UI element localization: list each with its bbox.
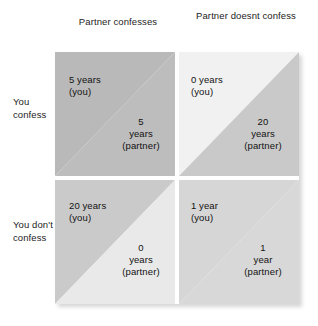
payoff-partner: 20 years (partner) (235, 116, 291, 152)
payoff-you: 1 year (you) (191, 200, 218, 224)
cell-confess-notconfess: 0 years (you) 20 years (partner) (177, 52, 299, 178)
cell-confess-confess: 5 years (you) 5 years (partner) (55, 52, 177, 178)
column-header-partner-doesnt-confess: Partner doesnt confess (196, 10, 296, 22)
payoff-matrix-figure: Partner confesses Partner doesnt confess… (0, 0, 318, 326)
payoff-you: 0 years (you) (191, 74, 223, 98)
row-header-you-dont-confess: You don't confess (13, 219, 59, 244)
row-header-you-confess: You confess (13, 96, 59, 121)
payoff-you: 5 years (you) (69, 74, 101, 98)
column-header-partner-confesses: Partner confesses (62, 16, 174, 28)
cell-notconfess-notconfess: 1 year (you) 1 year (partner) (177, 178, 299, 304)
payoff-partner: 5 years (partner) (113, 116, 169, 152)
matrix-body: 5 years (you) 5 years (partner) 0 years … (55, 52, 299, 304)
payoff-partner: 1 year (partner) (235, 242, 291, 278)
payoff-you: 20 years (you) (69, 200, 106, 224)
payoff-partner: 0 years (partner) (113, 242, 169, 278)
cell-notconfess-confess: 20 years (you) 0 years (partner) (55, 178, 177, 304)
